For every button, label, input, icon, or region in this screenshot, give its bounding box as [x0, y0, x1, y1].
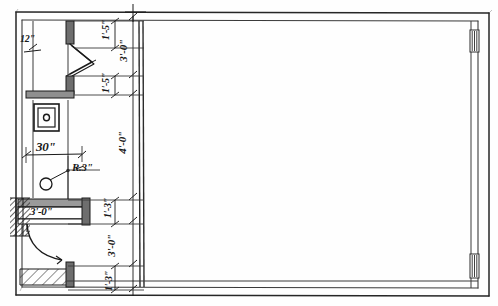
window-opening-top — [470, 30, 479, 52]
bifold-door-symbol — [66, 21, 96, 76]
bottom-hatched-wall — [20, 269, 66, 285]
square-fixture-symbol — [34, 104, 59, 131]
dimension-label-3-0-lower: 3'-0" — [106, 234, 117, 256]
dimension-label-r3in: R.3" — [72, 162, 93, 173]
horizontal-wall-segment — [26, 91, 74, 98]
dimension-label-30in: 30" — [36, 140, 55, 153]
floor-plan-linework — [0, 0, 498, 306]
dimension-label-4-0: 4'-0" — [117, 131, 128, 153]
dimension-label-mid-1-5: 1'-5" — [101, 73, 111, 93]
outer-wall-outline — [16, 12, 489, 296]
dimension-label-3-0-upper: 3'-0" — [118, 39, 129, 61]
main-vertical-partition — [139, 21, 144, 287]
dimension-label-door-3-0: 3'-0" — [30, 206, 52, 217]
sketch-strokes — [16, 9, 492, 291]
dimension-label-12in: 12" — [20, 34, 35, 44]
dimension-label-low-1-3: 1'-3" — [103, 198, 113, 218]
dimension-string-vertical — [129, 13, 137, 296]
floor-plan-sketch: 12" 1'-5" 3'-0" 1'-5" 4'-0" 30" R.3" 1'-… — [0, 0, 498, 306]
window-opening-bottom — [470, 254, 479, 278]
dimension-label-top-1-5: 1'-5" — [101, 20, 111, 40]
dimension-label-bot-1-3: 1'-3" — [104, 271, 114, 291]
swing-door-arc — [27, 224, 62, 264]
